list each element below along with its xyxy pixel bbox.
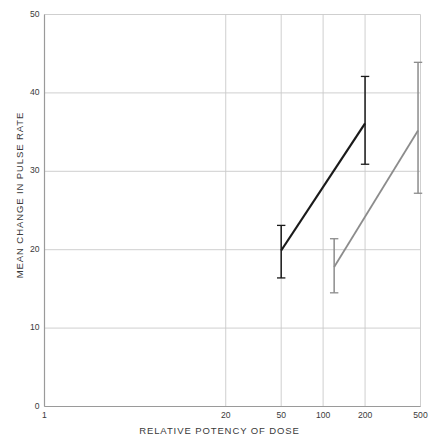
x-tick-label: 100 bbox=[303, 410, 343, 420]
y-axis-label-container: MEAN CHANGE IN PULSE RATE bbox=[8, 0, 30, 440]
x-axis-label: RELATIVE POTENCY OF DOSE bbox=[0, 425, 439, 436]
x-tick-label: 500 bbox=[401, 410, 439, 420]
x-tick-label: 200 bbox=[345, 410, 385, 420]
plot-area bbox=[0, 0, 439, 440]
x-tick-label: 50 bbox=[261, 410, 301, 420]
y-tick-label: 50 bbox=[14, 9, 40, 19]
y-tick-label: 30 bbox=[14, 165, 40, 175]
x-tick-label: 1 bbox=[25, 410, 65, 420]
y-tick-label: 10 bbox=[14, 322, 40, 332]
x-tick-label: 20 bbox=[206, 410, 246, 420]
pulse-rate-dose-response-chart: MEAN CHANGE IN PULSE RATE RELATIVE POTEN… bbox=[0, 0, 439, 440]
y-tick-label: 40 bbox=[14, 87, 40, 97]
y-tick-label: 20 bbox=[14, 244, 40, 254]
